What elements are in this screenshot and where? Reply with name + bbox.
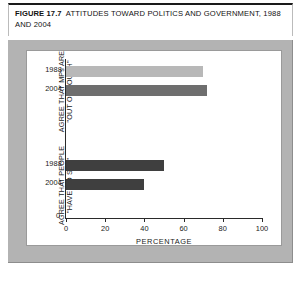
x-axis-label: PERCENTAGE xyxy=(136,237,192,246)
x-tick-label-60: 60 xyxy=(179,224,187,233)
x-tick-40 xyxy=(144,218,145,222)
bar-label-out-of-touch-1988: 1988 xyxy=(45,65,62,74)
bar-label-have-no-say-2004: 2004 xyxy=(45,178,62,187)
bar-out-of-touch-1988: 1988 xyxy=(66,66,203,77)
bar-label-out-of-touch-2004: 2004 xyxy=(45,84,62,93)
x-tick-60 xyxy=(184,218,185,222)
bar-out-of-touch-2004: 2004 xyxy=(66,85,207,96)
bar-label-have-no-say-1988: 1988 xyxy=(45,159,62,168)
x-tick-label-0: 0 xyxy=(64,224,68,233)
x-tick-label-80: 80 xyxy=(219,224,227,233)
x-tick-label-20: 20 xyxy=(101,224,109,233)
x-tick-0 xyxy=(66,218,67,222)
figure-caption-text: FIGURE 17.7 ATTITUDES TOWARD POLITICS AN… xyxy=(15,9,286,30)
figure-container: FIGURE 17.7 ATTITUDES TOWARD POLITICS AN… xyxy=(0,0,301,283)
chart-card: AGREE THAT MPs ARE "OUT OF TOUCH" AGREE … xyxy=(26,50,282,246)
x-tick-label-100: 100 xyxy=(256,224,269,233)
x-axis-line xyxy=(65,218,263,219)
figure-number: FIGURE 17.7 xyxy=(15,9,62,18)
bar-have-no-say-2004: 2004 xyxy=(66,179,144,190)
y-axis-origin-label: 0 xyxy=(56,211,60,220)
x-tick-20 xyxy=(105,218,106,222)
x-tick-100 xyxy=(262,218,263,222)
plot-area: AGREE THAT MPs ARE "OUT OF TOUCH" AGREE … xyxy=(66,59,262,218)
chart-panel: AGREE THAT MPs ARE "OUT OF TOUCH" AGREE … xyxy=(8,40,293,263)
figure-caption: FIGURE 17.7 ATTITUDES TOWARD POLITICS AN… xyxy=(8,3,293,36)
bar-have-no-say-1988: 1988 xyxy=(66,160,164,171)
x-tick-label-40: 40 xyxy=(140,224,148,233)
x-tick-80 xyxy=(223,218,224,222)
